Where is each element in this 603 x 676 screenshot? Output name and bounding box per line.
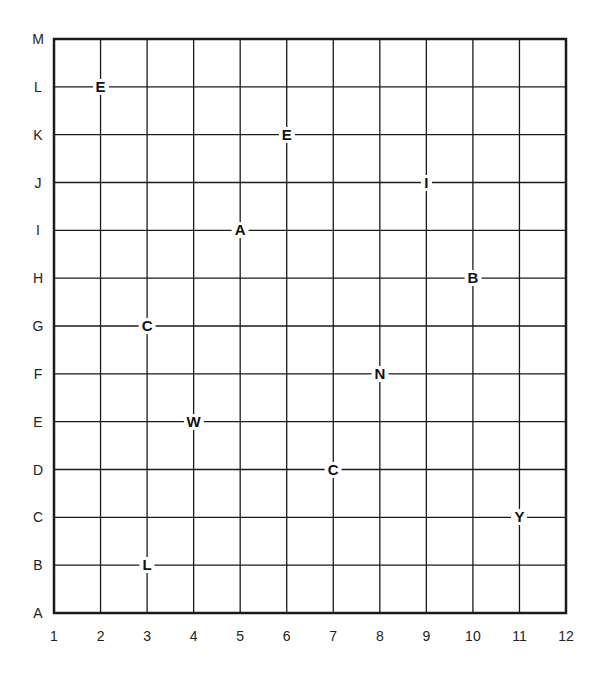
letter-marker: A bbox=[232, 222, 249, 238]
letter-marker: I bbox=[421, 175, 431, 191]
column-label: 12 bbox=[558, 628, 574, 644]
letter-marker: E bbox=[93, 79, 109, 95]
column-label: 4 bbox=[190, 628, 198, 644]
letter-marker: W bbox=[184, 414, 204, 430]
letter-marker: C bbox=[325, 462, 342, 478]
row-label: E bbox=[33, 414, 42, 430]
column-label: 7 bbox=[329, 628, 337, 644]
letter-marker: C bbox=[139, 318, 156, 334]
row-label: C bbox=[33, 509, 43, 525]
row-label: L bbox=[34, 79, 42, 95]
row-label: I bbox=[36, 222, 40, 238]
letter-marker: L bbox=[139, 557, 154, 573]
column-label: 10 bbox=[465, 628, 481, 644]
row-label: G bbox=[33, 318, 44, 334]
letter-marker: N bbox=[371, 366, 388, 382]
column-label: 5 bbox=[236, 628, 244, 644]
letter-marker: Y bbox=[511, 509, 527, 525]
column-label: 2 bbox=[97, 628, 105, 644]
letter-marker: B bbox=[464, 270, 481, 286]
row-label: A bbox=[33, 605, 42, 621]
row-label: B bbox=[33, 557, 42, 573]
column-label: 6 bbox=[283, 628, 291, 644]
row-label: H bbox=[33, 270, 43, 286]
letter-marker: E bbox=[279, 127, 295, 143]
row-label: K bbox=[33, 127, 42, 143]
row-label: M bbox=[32, 31, 44, 47]
column-label: 9 bbox=[422, 628, 430, 644]
column-label: 11 bbox=[512, 628, 527, 644]
coordinate-grid bbox=[0, 0, 603, 676]
row-label: J bbox=[35, 175, 42, 191]
column-label: 3 bbox=[143, 628, 151, 644]
column-label: 1 bbox=[50, 628, 58, 644]
row-label: F bbox=[34, 366, 43, 382]
row-label: D bbox=[33, 462, 43, 478]
column-label: 8 bbox=[376, 628, 384, 644]
